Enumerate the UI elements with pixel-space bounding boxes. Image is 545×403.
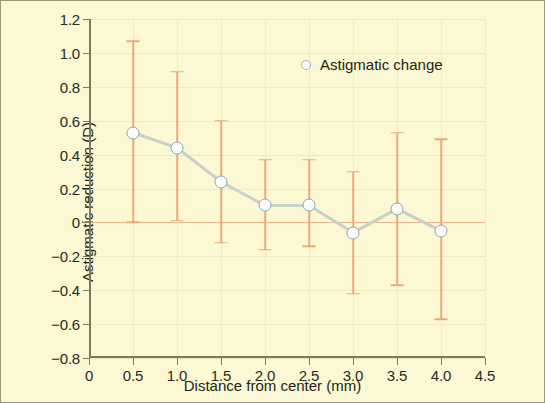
x-tick-label: 2.0 <box>255 367 275 384</box>
x-tick-label: 1.0 <box>167 367 187 384</box>
error-bar-cap <box>303 245 316 247</box>
x-tick-label: 1.5 <box>211 367 231 384</box>
gridline-x <box>485 19 486 358</box>
error-bar-cap <box>215 242 228 244</box>
y-tick-label: 1.0 <box>60 44 80 61</box>
x-tick-label: 3.5 <box>387 367 407 384</box>
gridline-y <box>89 358 485 359</box>
error-bar-cap <box>127 222 140 224</box>
error-bar-cap <box>171 220 184 222</box>
y-tick-label: 0.4 <box>60 146 80 163</box>
x-tick-mark <box>177 358 178 365</box>
x-tick-label: 4.0 <box>431 367 451 384</box>
legend: Astigmatic change <box>301 56 443 73</box>
x-tick-mark <box>89 358 90 365</box>
error-bar-cap <box>127 40 140 42</box>
x-tick-label: 2.5 <box>299 367 319 384</box>
y-tick-label: 0.2 <box>60 180 80 197</box>
data-point-marker <box>347 226 360 239</box>
x-tick-mark <box>441 358 442 365</box>
x-tick-label: 3.0 <box>343 367 363 384</box>
error-bar-cap <box>347 171 360 173</box>
x-tick-mark <box>265 358 266 365</box>
x-tick-mark <box>309 358 310 365</box>
y-tick-label: 0 <box>72 214 80 231</box>
error-bar-cap <box>435 139 448 141</box>
error-bar-cap <box>391 284 404 286</box>
y-tick-label: −0.4 <box>51 282 80 299</box>
x-tick-label: 4.5 <box>475 367 495 384</box>
error-bar-cap <box>259 159 272 161</box>
x-tick-mark <box>397 358 398 365</box>
x-tick-mark <box>133 358 134 365</box>
data-point-marker <box>391 202 404 215</box>
x-tick-label: 0 <box>85 367 93 384</box>
x-tick-mark <box>353 358 354 365</box>
error-bar-cap <box>259 249 272 251</box>
chart-figure: Astigmatic reduction (D) Distance from c… <box>0 0 545 403</box>
data-point-marker <box>259 199 272 212</box>
y-tick-label: 0.6 <box>60 112 80 129</box>
error-bar-cap <box>303 159 316 161</box>
error-bar-cap <box>391 132 404 134</box>
y-tick-label: −0.2 <box>51 248 80 265</box>
data-point-marker <box>127 126 140 139</box>
error-bar-cap <box>347 293 360 295</box>
x-tick-mark <box>485 358 486 365</box>
data-point-marker <box>215 175 228 188</box>
error-bar-cap <box>435 318 448 320</box>
data-point-marker <box>303 199 316 212</box>
y-tick-label: 0.8 <box>60 78 80 95</box>
x-tick-label: 0.5 <box>123 367 143 384</box>
error-bar-cap <box>171 71 184 73</box>
y-tick-label: −0.8 <box>51 350 80 367</box>
data-point-marker <box>435 224 448 237</box>
legend-marker-icon <box>301 60 311 70</box>
error-bar-cap <box>215 120 228 122</box>
y-tick-label: −0.6 <box>51 316 80 333</box>
y-tick-label: 1.2 <box>60 11 80 28</box>
x-tick-mark <box>221 358 222 365</box>
data-point-marker <box>171 141 184 154</box>
legend-label: Astigmatic change <box>320 56 443 73</box>
